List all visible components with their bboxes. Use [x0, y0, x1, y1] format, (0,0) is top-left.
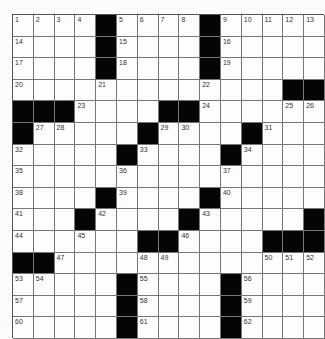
grid-cell[interactable]	[55, 80, 76, 102]
grid-cell[interactable]	[138, 188, 159, 210]
grid-cell[interactable]	[55, 209, 76, 231]
grid-cell[interactable]	[34, 37, 55, 59]
grid-cell[interactable]	[138, 166, 159, 188]
grid-cell[interactable]: 6	[138, 15, 159, 37]
grid-cell[interactable]	[96, 101, 117, 123]
grid-cell[interactable]	[117, 123, 138, 145]
grid-cell[interactable]	[200, 123, 221, 145]
grid-cell[interactable]	[179, 58, 200, 80]
grid-cell[interactable]	[221, 231, 242, 253]
grid-cell[interactable]	[221, 101, 242, 123]
grid-cell[interactable]: 29	[159, 123, 180, 145]
grid-cell[interactable]	[96, 166, 117, 188]
grid-cell[interactable]	[117, 231, 138, 253]
grid-cell[interactable]	[221, 123, 242, 145]
grid-cell[interactable]	[283, 188, 304, 210]
grid-cell[interactable]	[179, 80, 200, 102]
grid-cell[interactable]	[304, 274, 325, 296]
grid-cell[interactable]	[263, 101, 284, 123]
grid-cell[interactable]	[283, 58, 304, 80]
grid-cell[interactable]	[75, 58, 96, 80]
grid-cell[interactable]: 54	[34, 274, 55, 296]
grid-cell[interactable]	[96, 274, 117, 296]
grid-cell[interactable]: 17	[13, 58, 34, 80]
grid-cell[interactable]	[34, 80, 55, 102]
grid-cell[interactable]	[138, 58, 159, 80]
grid-cell[interactable]	[283, 145, 304, 167]
grid-cell[interactable]	[159, 188, 180, 210]
grid-cell[interactable]	[96, 145, 117, 167]
grid-cell[interactable]	[283, 317, 304, 339]
grid-cell[interactable]	[304, 123, 325, 145]
grid-cell[interactable]: 9	[221, 15, 242, 37]
grid-cell[interactable]: 21	[96, 80, 117, 102]
grid-cell[interactable]	[221, 253, 242, 275]
grid-cell[interactable]: 3	[55, 15, 76, 37]
grid-cell[interactable]: 43	[200, 209, 221, 231]
grid-cell[interactable]	[159, 274, 180, 296]
grid-cell[interactable]	[55, 145, 76, 167]
grid-cell[interactable]	[200, 253, 221, 275]
grid-cell[interactable]	[200, 231, 221, 253]
grid-cell[interactable]	[159, 166, 180, 188]
grid-cell[interactable]: 51	[283, 253, 304, 275]
grid-cell[interactable]: 24	[200, 101, 221, 123]
grid-cell[interactable]	[34, 145, 55, 167]
grid-cell[interactable]	[75, 188, 96, 210]
grid-cell[interactable]	[55, 37, 76, 59]
grid-cell[interactable]	[117, 209, 138, 231]
grid-cell[interactable]	[263, 37, 284, 59]
grid-cell[interactable]: 15	[117, 37, 138, 59]
grid-cell[interactable]: 37	[221, 166, 242, 188]
grid-cell[interactable]: 62	[242, 317, 263, 339]
grid-cell[interactable]: 12	[283, 15, 304, 37]
grid-cell[interactable]: 40	[221, 188, 242, 210]
grid-cell[interactable]: 34	[242, 145, 263, 167]
grid-cell[interactable]	[221, 209, 242, 231]
grid-cell[interactable]	[96, 123, 117, 145]
grid-cell[interactable]	[179, 188, 200, 210]
grid-cell[interactable]	[55, 296, 76, 318]
grid-cell[interactable]: 49	[159, 253, 180, 275]
grid-cell[interactable]: 7	[159, 15, 180, 37]
grid-cell[interactable]: 42	[96, 209, 117, 231]
grid-cell[interactable]	[200, 317, 221, 339]
grid-cell[interactable]: 31	[263, 123, 284, 145]
grid-cell[interactable]	[304, 296, 325, 318]
grid-cell[interactable]	[34, 209, 55, 231]
grid-cell[interactable]: 59	[242, 296, 263, 318]
grid-cell[interactable]: 41	[13, 209, 34, 231]
grid-cell[interactable]	[242, 188, 263, 210]
grid-cell[interactable]	[75, 80, 96, 102]
grid-cell[interactable]	[263, 296, 284, 318]
grid-cell[interactable]	[159, 317, 180, 339]
grid-cell[interactable]	[263, 317, 284, 339]
grid-cell[interactable]: 35	[13, 166, 34, 188]
grid-cell[interactable]	[75, 145, 96, 167]
grid-cell[interactable]: 1	[13, 15, 34, 37]
grid-cell[interactable]: 10	[242, 15, 263, 37]
grid-cell[interactable]	[242, 209, 263, 231]
grid-cell[interactable]: 48	[138, 253, 159, 275]
grid-cell[interactable]	[75, 317, 96, 339]
grid-cell[interactable]	[159, 80, 180, 102]
grid-cell[interactable]: 22	[200, 80, 221, 102]
grid-cell[interactable]	[179, 296, 200, 318]
grid-cell[interactable]	[96, 253, 117, 275]
grid-cell[interactable]: 5	[117, 15, 138, 37]
grid-cell[interactable]: 16	[221, 37, 242, 59]
grid-cell[interactable]: 47	[55, 253, 76, 275]
grid-cell[interactable]	[96, 296, 117, 318]
grid-cell[interactable]	[263, 188, 284, 210]
grid-cell[interactable]: 28	[55, 123, 76, 145]
grid-cell[interactable]	[263, 145, 284, 167]
grid-cell[interactable]	[242, 58, 263, 80]
grid-cell[interactable]	[242, 166, 263, 188]
grid-cell[interactable]	[283, 296, 304, 318]
grid-cell[interactable]	[283, 209, 304, 231]
grid-cell[interactable]	[221, 80, 242, 102]
grid-cell[interactable]	[283, 274, 304, 296]
grid-cell[interactable]: 53	[13, 274, 34, 296]
grid-cell[interactable]	[159, 37, 180, 59]
grid-cell[interactable]	[117, 253, 138, 275]
